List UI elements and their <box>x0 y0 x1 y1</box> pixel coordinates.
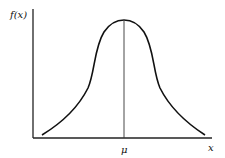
density-curve <box>42 20 205 135</box>
mean-tick-label: μ <box>121 145 128 155</box>
y-axis-label: f(x) <box>10 10 27 20</box>
bell-curve-plot <box>0 0 225 158</box>
x-axis-label: x <box>208 143 214 153</box>
